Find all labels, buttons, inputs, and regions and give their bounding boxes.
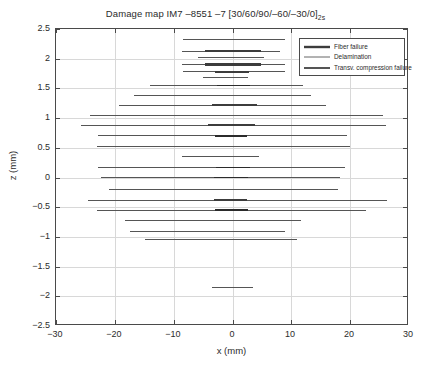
y-axis-tick-label: −2	[40, 290, 50, 300]
chart-title-subscript: 2s	[318, 14, 325, 21]
damage-segment	[214, 177, 248, 179]
y-axis-tick	[56, 59, 60, 60]
y-axis-tick-label: 2	[45, 53, 50, 63]
damage-segment	[217, 85, 250, 87]
grid-line-horizontal	[56, 148, 407, 149]
y-axis-tick	[403, 148, 407, 149]
grid-line-horizontal	[56, 118, 407, 119]
y-axis-tick-label: −1.5	[32, 261, 50, 271]
x-axis-tick	[174, 320, 175, 324]
x-axis-tick	[350, 320, 351, 324]
y-axis-tick	[56, 237, 60, 238]
grid-line-horizontal	[56, 237, 407, 238]
y-axis-tick	[56, 29, 60, 30]
legend-item-delamination: Delamination	[304, 52, 401, 62]
damage-segment	[182, 156, 259, 157]
damage-segment	[203, 77, 248, 78]
y-axis-tick	[403, 29, 407, 30]
grid-line-horizontal	[56, 267, 407, 268]
legend-line-icon	[304, 43, 330, 51]
x-axis-tick-label: −10	[165, 329, 180, 339]
y-axis-tick-label: −2.5	[32, 320, 50, 330]
y-axis-tick-label: 1.5	[37, 82, 50, 92]
x-axis-tick	[291, 320, 292, 324]
y-axis-tick	[56, 267, 60, 268]
damage-segment	[125, 220, 301, 221]
x-axis-tick-label: 0	[229, 329, 234, 339]
damage-segment	[97, 146, 350, 147]
y-axis-tick	[403, 88, 407, 89]
legend-label: Transv. compression failure	[334, 65, 412, 71]
x-axis-tick-label: 30	[403, 329, 413, 339]
damage-segment	[198, 57, 264, 58]
y-axis-tick	[56, 118, 60, 119]
damage-segment	[215, 209, 249, 211]
x-axis-tick	[233, 29, 234, 33]
legend-label: Fiber failure	[334, 44, 368, 50]
x-axis-tick	[174, 29, 175, 33]
damage-segment	[212, 287, 253, 288]
y-axis-tick-label: −1	[40, 231, 50, 241]
damage-segment	[208, 124, 254, 126]
y-axis-tick-label: 0	[45, 172, 50, 182]
grid-line-horizontal	[56, 88, 407, 89]
damage-segment	[130, 231, 285, 232]
y-axis-tick	[403, 267, 407, 268]
damage-map-figure: Damage map IM7 –8551 –7 [30/60/90/–60/–3…	[0, 0, 431, 365]
x-axis-title-text: x (mm)	[217, 345, 247, 356]
x-axis-tick-label: −30	[47, 329, 62, 339]
damage-segment	[205, 50, 260, 52]
damage-segment	[212, 104, 257, 106]
x-axis-tick	[291, 29, 292, 33]
legend: Fiber failure Delamination Transv. compr…	[299, 38, 405, 76]
legend-item-fiber-failure: Fiber failure	[304, 42, 401, 52]
damage-segment	[215, 71, 249, 73]
damage-segment	[90, 115, 382, 116]
damage-segment	[214, 199, 248, 201]
damage-segment	[183, 39, 285, 40]
x-axis-tick-label: 10	[285, 329, 295, 339]
y-axis-tick	[403, 237, 407, 238]
grid-line-horizontal	[56, 296, 407, 297]
damage-segment	[215, 135, 247, 137]
y-axis-tick	[403, 178, 407, 179]
y-axis-tick	[403, 118, 407, 119]
x-axis-tick	[233, 320, 234, 324]
y-axis-tick	[403, 296, 407, 297]
x-axis-tick	[115, 320, 116, 324]
y-axis-tick-label: 0.5	[37, 142, 50, 152]
y-axis-tick	[56, 296, 60, 297]
x-axis-tick-label: −20	[106, 329, 121, 339]
damage-segment	[205, 63, 261, 65]
damage-segment	[216, 167, 250, 169]
y-axis-tick	[56, 88, 60, 89]
x-axis-title: x (mm)	[55, 345, 408, 356]
damage-segment	[145, 239, 297, 240]
legend-line-icon	[304, 64, 330, 72]
x-axis-tick	[350, 29, 351, 33]
y-axis-title-text: z (mm)	[7, 151, 18, 181]
y-axis-tick	[403, 207, 407, 208]
grid-line-horizontal	[56, 207, 407, 208]
legend-line-icon	[304, 53, 330, 61]
legend-label: Delamination	[334, 54, 371, 60]
x-axis-tick	[56, 320, 57, 324]
y-axis-tick-label: 1	[45, 112, 50, 122]
damage-segment	[109, 189, 338, 190]
y-axis-tick-label: −0.5	[32, 201, 50, 211]
y-axis-tick	[56, 207, 60, 208]
y-axis-tick-label: 2.5	[37, 23, 50, 33]
legend-item-transv-compression-failure: Transv. compression failure	[304, 63, 401, 73]
chart-title: Damage map IM7 –8551 –7 [30/60/90/–60/–3…	[0, 8, 431, 21]
y-axis-tick	[56, 178, 60, 179]
y-axis-tick	[56, 148, 60, 149]
damage-segment	[134, 95, 311, 96]
x-axis-tick	[115, 29, 116, 33]
chart-title-main: Damage map IM7 –8551 –7 [30/60/90/–60/–3…	[106, 8, 318, 19]
y-axis-title: z (mm)	[7, 136, 18, 196]
x-axis-tick-label: 20	[344, 329, 354, 339]
